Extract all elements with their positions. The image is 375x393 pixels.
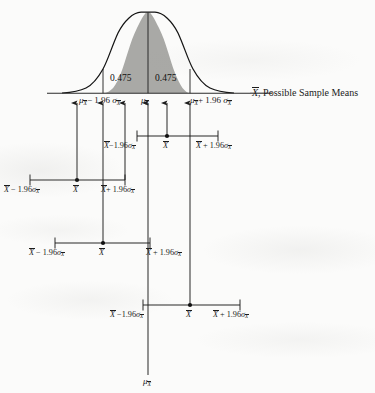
interval-2-mean-label: X xyxy=(73,186,78,194)
interval-1-lower-label: X−1.96σX xyxy=(104,142,135,151)
interval-row-3 xyxy=(55,238,150,249)
interval-1-upper-label: X + 1.96σX xyxy=(196,142,231,151)
interval-4-lower-label: X −1.96σX xyxy=(110,311,143,320)
interval-3-upper-label: X + 1.96σX xyxy=(146,249,181,258)
interval-4-upper-label: X + 1.96σX xyxy=(213,311,248,320)
interval-1-mean-dot xyxy=(165,134,169,138)
figure-graphics xyxy=(0,0,375,393)
area-label-left: 0.475 xyxy=(110,74,131,84)
interval-4-mean-dot xyxy=(188,303,192,307)
interval-2-mean-dot xyxy=(75,178,79,182)
axis-tick-label-lower: μX− 1.96 σX xyxy=(79,96,120,106)
interval-row-2 xyxy=(30,175,125,186)
interval-row-1 xyxy=(137,131,218,142)
axis-tick-label-center: μX xyxy=(141,96,149,106)
interval-2-upper-label: X+ 1.96σX xyxy=(101,186,134,195)
bottom-mu-label: μX xyxy=(143,377,151,387)
axis-tick-label-upper: μX+ 1.96 σX xyxy=(190,96,231,106)
confidence-interval-figure: 0.475 0.475 μX− 1.96 σX μX μX+ 1.96 σX X… xyxy=(0,0,375,393)
interval-3-mean-dot xyxy=(101,241,105,245)
interval-row-4 xyxy=(143,300,240,311)
interval-3-lower-label: X − 1.96σX xyxy=(29,249,64,258)
interval-3-mean-label: X xyxy=(99,249,104,257)
axis-name-label: X, Possible Sample Means xyxy=(252,88,358,98)
interval-4-mean-label: X xyxy=(186,311,191,319)
interval-2-lower-label: X − 1.96σX xyxy=(4,186,39,195)
interval-1-mean-label: X xyxy=(163,142,168,150)
area-label-right: 0.475 xyxy=(155,74,176,84)
